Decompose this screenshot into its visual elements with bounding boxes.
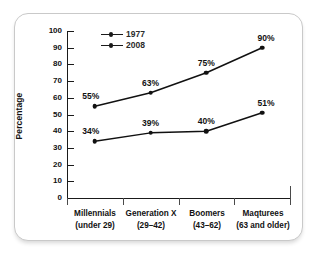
x-axis-tick	[123, 198, 124, 205]
x-axis-category-label: Maqturees(63 and older)	[235, 208, 291, 238]
category-name: Generation X	[126, 209, 177, 218]
data-point-marker	[204, 70, 209, 75]
data-point-marker	[260, 111, 265, 116]
y-axis-tick	[67, 198, 74, 199]
y-axis-tick-label: 10	[38, 177, 62, 185]
x-axis-tick	[234, 198, 235, 205]
data-point-marker	[93, 139, 98, 144]
data-point-label: 39%	[142, 118, 159, 127]
data-point-label: 40%	[198, 117, 215, 126]
category-age-range: (29–42)	[123, 220, 179, 232]
category-name: Millennials	[74, 209, 116, 218]
data-point-label: 75%	[198, 58, 215, 67]
x-axis-category-label: Boomers(43–62)	[179, 208, 235, 238]
x-axis-tick	[179, 198, 180, 205]
x-axis-tick	[290, 198, 291, 205]
legend-item: 2008	[101, 40, 191, 51]
legend-line-marker-icon	[101, 41, 123, 50]
legend-item-label: 2008	[126, 41, 145, 50]
x-axis-category-labels: Millennials(under 29)Generation X(29–42)…	[67, 208, 291, 238]
data-point-label: 55%	[82, 92, 99, 101]
category-name: Boomers	[189, 209, 225, 218]
y-axis-tick-label: 60	[38, 94, 62, 102]
data-point-label: 63%	[142, 78, 159, 87]
chart-card: Percentage 0102030405060708090100 34%39%…	[14, 13, 303, 241]
plot-area: 34%39%40%51%55%63%75%90%	[67, 31, 290, 198]
category-age-range: (43–62)	[179, 220, 235, 232]
series-line	[95, 113, 262, 141]
data-point-marker	[148, 131, 153, 136]
legend-line-marker-icon	[101, 30, 123, 39]
data-point-label: 51%	[258, 98, 275, 107]
legend-item-label: 1977	[126, 30, 145, 39]
y-axis-tick-label: 90	[38, 44, 62, 52]
data-point-marker	[93, 104, 98, 109]
y-axis-tick-label: 50	[38, 111, 62, 119]
legend-item: 1977	[101, 29, 191, 40]
y-axis-tick-label: 40	[38, 127, 62, 135]
x-axis-tick	[67, 198, 68, 205]
y-axis-title: Percentage	[14, 76, 24, 156]
y-axis-tick-label: 20	[38, 161, 62, 169]
x-axis-category-label: Generation X(29–42)	[123, 208, 179, 238]
series-line	[95, 48, 262, 106]
category-age-range: (under 29)	[67, 220, 123, 232]
category-name: Maqturees	[243, 209, 284, 218]
series-lines	[67, 31, 290, 198]
y-axis-tick-label: 80	[38, 60, 62, 68]
x-axis-category-label: Millennials(under 29)	[67, 208, 123, 238]
data-point-marker	[204, 129, 209, 134]
data-point-marker	[260, 45, 265, 50]
data-point-label: 34%	[82, 127, 99, 136]
data-point-marker	[148, 90, 153, 95]
category-age-range: (63 and older)	[235, 220, 291, 232]
chart-legend: 1977 2008	[101, 29, 191, 51]
data-point-label: 90%	[258, 33, 275, 42]
y-axis-tick-label: 100	[38, 27, 62, 35]
y-axis-tick-label: 70	[38, 77, 62, 85]
y-axis-tick-label: 0	[38, 194, 62, 202]
y-axis-tick-label: 30	[38, 144, 62, 152]
